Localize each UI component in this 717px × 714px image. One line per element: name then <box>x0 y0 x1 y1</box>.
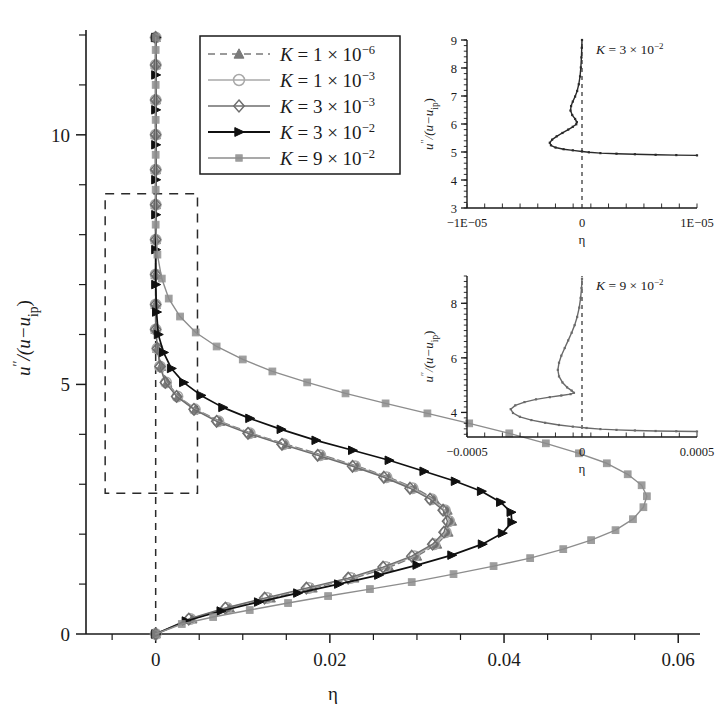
marker-square <box>165 295 172 302</box>
inset-marker <box>564 347 566 349</box>
marker-triangle-right <box>451 477 460 486</box>
inset-marker <box>574 324 576 326</box>
marker-square <box>154 251 161 258</box>
marker-triangle-right <box>349 446 358 455</box>
inset-marker <box>519 416 521 418</box>
inset-marker <box>615 429 617 431</box>
marker-square <box>239 356 246 363</box>
marker-square <box>382 400 389 407</box>
x-tick-label: 0 <box>151 649 161 670</box>
inset-marker <box>571 390 573 392</box>
inset-marker <box>578 83 580 85</box>
inset-marker <box>575 123 577 125</box>
marker-square <box>304 379 311 386</box>
inset-marker <box>581 39 583 41</box>
inset-x-tick-label: −0.0005 <box>446 445 487 459</box>
marker-square <box>342 390 349 397</box>
inset-marker <box>550 144 552 146</box>
marker-square <box>644 493 651 500</box>
marker-square <box>603 460 610 467</box>
inset-marker <box>523 401 525 403</box>
inset-marker <box>569 393 571 395</box>
legend-label: K = 1 × 10−6 <box>279 43 375 65</box>
inset-marker <box>570 105 572 107</box>
inset-marker <box>566 386 568 388</box>
inset-marker <box>556 135 558 137</box>
inset-marker <box>554 146 556 148</box>
marker-triangle-right <box>277 425 286 434</box>
inset-x-tick-label: 0 <box>579 216 585 230</box>
marker-triangle-right <box>160 348 169 357</box>
marker-square <box>630 516 637 523</box>
marker-square <box>450 571 457 578</box>
inset-marker <box>510 408 512 410</box>
inset-marker <box>576 90 578 92</box>
inset-marker <box>530 419 532 421</box>
inset-marker <box>560 355 562 357</box>
inset-marker <box>574 95 576 97</box>
marker-square <box>527 555 534 562</box>
inset-marker <box>655 154 657 156</box>
inset-series-line <box>550 40 697 155</box>
inset-y-axis-label: u′′/(u−uip) <box>420 98 440 150</box>
marker-square <box>192 329 199 336</box>
x-tick-label: 0.06 <box>662 649 695 670</box>
inset-marker <box>696 154 698 156</box>
figure-root: 00.020.040.060510ηu′′/(u−uip)K = 1 × 10−… <box>0 0 717 714</box>
marker-square <box>152 151 159 158</box>
inset-marker <box>615 153 617 155</box>
marker-square <box>408 579 415 586</box>
inset-marker <box>586 427 588 429</box>
marker-square <box>152 34 159 41</box>
inset-y-tick-label: 4 <box>451 406 458 420</box>
y-tick-label: 10 <box>51 125 70 146</box>
marker-square <box>152 116 159 123</box>
inset-series-line <box>511 279 697 432</box>
marker-square <box>177 313 184 320</box>
inset-marker <box>558 362 560 364</box>
marker-square <box>490 563 497 570</box>
inset-marker <box>634 153 636 155</box>
marker-triangle-right <box>478 540 487 549</box>
marker-square <box>588 537 595 544</box>
marker-square <box>210 614 217 621</box>
marker-square <box>246 607 253 614</box>
inset-y-tick-label: 9 <box>451 34 457 48</box>
inset-marker <box>579 75 581 77</box>
marker-square <box>152 631 159 638</box>
y-axis-label-text: u′′/(u−uip) <box>11 300 41 376</box>
marker-triangle-right <box>448 551 457 560</box>
marker-square <box>178 621 185 628</box>
y-axis-label: u′′/(u−uip) <box>11 300 41 376</box>
inset-y-axis-label-text: u′′/(u−uip) <box>420 98 440 150</box>
marker-triangle-right <box>312 436 321 445</box>
legend-label: K = 3 × 10−3 <box>279 95 375 117</box>
inset-marker <box>557 369 559 371</box>
inset-y-tick-label: 3 <box>451 202 457 216</box>
marker-square <box>424 410 431 417</box>
inset-marker <box>599 428 601 430</box>
inset-x-tick-label: 0 <box>579 445 585 459</box>
inset-plot-2: 468−0.000500.0005ηu′′/(u−uip)K = 9 × 10−… <box>420 276 714 476</box>
marker-triangle-right <box>413 561 422 570</box>
inset-marker <box>576 316 578 318</box>
marker-square <box>269 368 276 375</box>
marker-square <box>152 186 159 193</box>
inset-marker <box>578 307 580 309</box>
inset-marker <box>675 154 677 156</box>
inset-x-tick-label: −1E−05 <box>447 216 488 230</box>
marker-square <box>325 593 332 600</box>
marker-square <box>158 275 165 282</box>
inset-marker <box>569 109 571 111</box>
inset-y-tick-label: 4 <box>451 174 458 188</box>
inset-title-label: K = 3 × 10−2 <box>595 41 663 57</box>
inset-marker <box>571 114 573 116</box>
inset-marker <box>571 332 573 334</box>
legend: K = 1 × 10−6K = 1 × 10−3K = 3 × 10−3K = … <box>200 36 400 174</box>
marker-square <box>624 471 631 478</box>
marker-square <box>560 546 567 553</box>
inset-marker <box>560 394 562 396</box>
inset-x-axis-label: η <box>579 461 586 476</box>
inset-marker <box>580 297 582 299</box>
inset-marker <box>572 126 574 128</box>
